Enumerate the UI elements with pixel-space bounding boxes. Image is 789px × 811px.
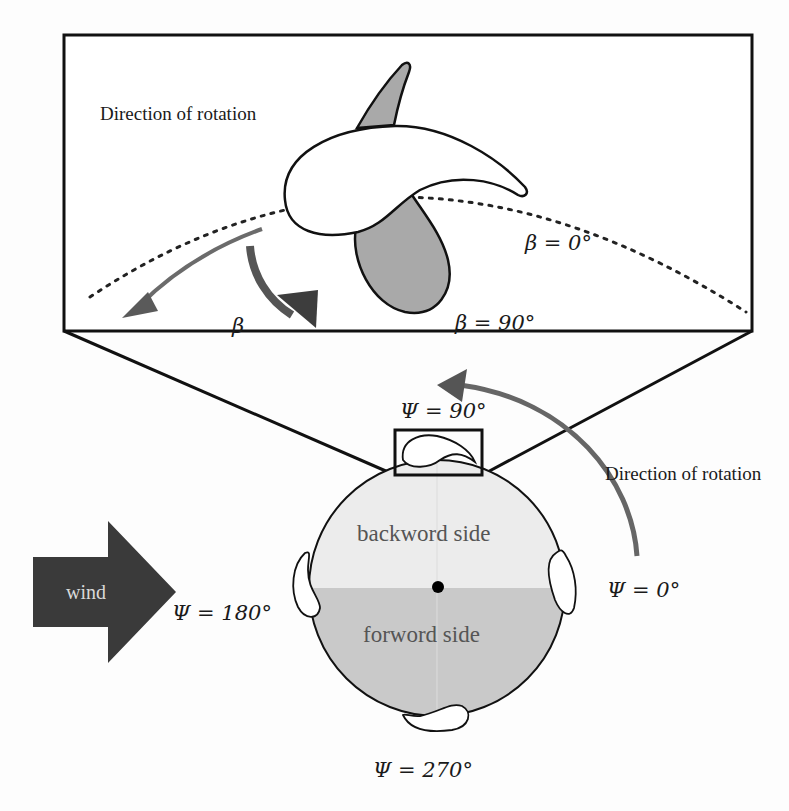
wind-arrow: wind <box>33 521 176 663</box>
zoom-panel: Direction of rotation β = 0° β β = 90° <box>64 35 752 338</box>
beta-symbol: β <box>231 314 244 338</box>
psi-90-label: Ψ = 90° <box>400 399 487 423</box>
zoom-connector-left <box>64 331 395 475</box>
rotor-disk: backword side forword side <box>293 430 580 731</box>
rotor-rotation-arrowhead-icon <box>437 369 467 402</box>
psi-180-label: Ψ = 180° <box>172 601 272 625</box>
psi-0-label: Ψ = 0° <box>607 578 680 602</box>
beta-90-label: β = 90° <box>454 311 535 335</box>
diagram-canvas: Direction of rotation β = 0° β β = 90° b… <box>0 0 789 811</box>
forward-side-label: forword side <box>363 622 480 647</box>
hub-dot <box>432 581 444 593</box>
psi-270-label: Ψ = 270° <box>373 758 473 782</box>
beta-0-label: β = 0° <box>524 231 592 255</box>
forward-half <box>300 588 580 728</box>
rotation-label-bottom: Direction of rotation <box>605 463 762 484</box>
rotation-label-top: Direction of rotation <box>100 103 257 124</box>
backward-half <box>300 450 580 588</box>
backward-side-label: backword side <box>357 521 491 546</box>
wind-label: wind <box>66 581 106 603</box>
